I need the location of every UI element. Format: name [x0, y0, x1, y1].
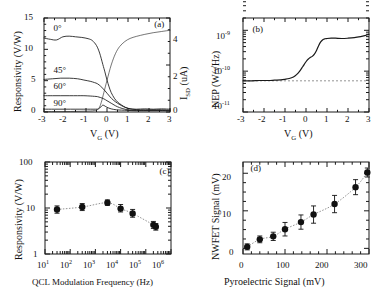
panel-d-xtick-100: 100	[276, 260, 290, 270]
panel-b-xtick-3: 3	[366, 114, 371, 124]
panel-c-ytick-10: 10	[26, 203, 35, 213]
panel-d-plot: (d)	[196, 148, 391, 297]
panel-b-ylabel: NEP (W/√Hz)	[210, 51, 221, 108]
data-point	[352, 184, 358, 190]
panel-a-xlabel: VG (V)	[90, 128, 119, 139]
panel-c-xtick-1e3: 103	[83, 260, 95, 270]
panel-b-ytick-1e-10: 10-10	[213, 66, 230, 76]
panel-c-xtick-1e4: 104	[106, 260, 118, 270]
annotation-90deg: 90°	[53, 98, 66, 108]
panel-b-ytick-1e-9: 10-9	[216, 31, 230, 41]
panel-d-label: (d)	[251, 163, 262, 173]
panel-a-ytick-5: 5	[31, 74, 36, 84]
panel-c-label: (c)	[160, 166, 170, 176]
data-point	[129, 210, 135, 216]
panel-b-label: (b)	[252, 24, 263, 34]
data-point	[257, 236, 263, 242]
data-point	[364, 169, 370, 175]
panel-c-ytick-1: 1	[33, 249, 38, 259]
data-point	[282, 226, 288, 232]
panel-b-xlabel: VG (V)	[284, 128, 313, 139]
panel-a-ytick-15: 15	[24, 12, 33, 22]
connector-dotted	[57, 203, 156, 227]
panel-c-ytick-100: 100	[19, 157, 33, 167]
panel-a-xtick--1: -1	[80, 114, 88, 124]
panel-c-ylabel: Responsivity (V/W)	[13, 179, 24, 260]
panel-c-xtick-1e2: 102	[60, 260, 72, 270]
panel-a-xtick-1: 1	[125, 114, 130, 124]
panel-c: Responsivity (V/W) QCL Modulation Freque…	[0, 148, 196, 297]
panel-d: NWFET Signal (mV) Pyroelectric Signal (m…	[196, 148, 391, 297]
panel-c-xtick-1e5: 105	[129, 260, 141, 270]
series-nep	[243, 34, 369, 81]
data-point	[244, 244, 250, 250]
panel-d-xtick-0: 0	[239, 260, 244, 270]
data-point	[331, 201, 337, 207]
panel-b: NEP (W/√Hz) VG (V) 10-9 10-10 10-11 -3 -…	[196, 0, 391, 148]
panel-a-ytick-r-0: 0	[173, 105, 178, 115]
panel-d-ytick-0: 0	[229, 247, 234, 257]
panel-b-xtick--3: -3	[237, 114, 245, 124]
panel-d-xlabel: Pyroelectric Signal (mV)	[224, 276, 325, 287]
panel-d-xtick-200: 200	[315, 260, 329, 270]
panel-c-xlabel: QCL Modulation Frequency (Hz)	[32, 277, 153, 287]
data-point	[117, 205, 123, 211]
panel-c-frame	[45, 162, 171, 254]
data-point	[153, 224, 159, 230]
panel-a-ylabel-right: ISD (uA)	[178, 67, 189, 100]
data-point	[54, 206, 60, 212]
annotation-60deg: 60°	[53, 81, 66, 91]
data-point	[270, 233, 276, 239]
panel-b-ytick-1e-11: 10-11	[213, 101, 230, 111]
panel-d-ytick-10: 10	[222, 209, 231, 219]
connector-dotted	[247, 173, 367, 247]
panel-a-ytick-0: 0	[31, 105, 36, 115]
data-point	[79, 204, 85, 210]
annotation-0deg: 0°	[53, 23, 62, 33]
panel-a-ytick-r-2: 2	[173, 71, 178, 81]
panel-a-label: (a)	[154, 19, 164, 29]
panel-a-xtick--3: -3	[38, 114, 46, 124]
panel-a-xtick-2: 2	[146, 114, 151, 124]
panel-d-ytick-20: 20	[222, 172, 231, 182]
data-point	[310, 211, 316, 217]
panel-b-xtick-2: 2	[345, 114, 350, 124]
panel-b-xtick-1: 1	[324, 114, 329, 124]
panel-c-xtick-1e1: 101	[37, 260, 49, 270]
panel-a-xtick-0: 0	[104, 114, 109, 124]
panel-d-ylabel: NWFET Signal (mV)	[210, 174, 221, 260]
panel-a-plot: 0°45°60°90°(a)	[0, 0, 196, 148]
figure-root: Responsivity (V/W) ISD (uA) VG (V) 15 10…	[0, 0, 391, 297]
panel-b-xtick-0: 0	[303, 114, 308, 124]
panel-c-plot: (c)	[0, 148, 196, 297]
data-point	[298, 219, 304, 225]
data-point	[104, 200, 110, 206]
panel-a: Responsivity (V/W) ISD (uA) VG (V) 15 10…	[0, 0, 196, 148]
panel-c-xtick-1e6: 106	[152, 260, 164, 270]
panel-a-xtick--2: -2	[59, 114, 67, 124]
panel-d-xtick-300: 300	[354, 260, 368, 270]
panel-a-ylabel: Responsivity (V/W)	[12, 31, 23, 112]
panel-b-xtick--2: -2	[258, 114, 266, 124]
panel-a-ytick-10: 10	[24, 43, 33, 53]
annotation-45deg: 45°	[53, 65, 66, 75]
panel-a-ytick-r-4: 4	[173, 34, 178, 44]
panel-b-xtick--1: -1	[279, 114, 287, 124]
panel-a-xtick-3: 3	[167, 114, 172, 124]
